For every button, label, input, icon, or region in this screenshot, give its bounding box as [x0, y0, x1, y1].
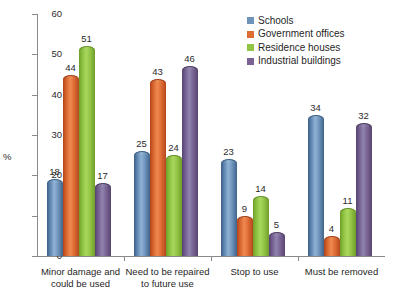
bar: 4: [324, 236, 340, 256]
bar-body: [166, 159, 182, 256]
bar-body: [237, 220, 253, 256]
bar: 11: [340, 208, 356, 256]
bar-body: [221, 163, 237, 256]
legend-swatch-icon: [247, 31, 254, 38]
legend-item[interactable]: Government offices: [247, 28, 345, 42]
bar: 44: [63, 75, 79, 256]
bar-value-label: 24: [168, 143, 179, 152]
legend-item[interactable]: Schools: [247, 14, 345, 28]
x-tick-mark: [124, 256, 125, 261]
y-axis-title: %: [3, 152, 11, 161]
bar-group: 18445117: [47, 14, 111, 256]
bar: 46: [182, 66, 198, 256]
bar-body: [356, 127, 372, 256]
bar-value-label: 9: [242, 204, 247, 213]
bar-value-label: 34: [310, 103, 321, 112]
bar-value-label: 4: [329, 224, 334, 233]
bar-value-label: 17: [97, 171, 108, 180]
bar-body: [340, 212, 356, 256]
bar-value-label: 32: [358, 111, 369, 120]
bar-body: [308, 119, 324, 256]
x-tick-mark: [211, 256, 212, 261]
legend-label: Industrial buildings: [258, 56, 341, 66]
bar-body: [79, 50, 95, 256]
bar: 14: [253, 196, 269, 256]
bar-group: 25432446: [134, 14, 198, 256]
legend-label: Government offices: [258, 29, 345, 39]
bar-value-label: 14: [255, 184, 266, 193]
bar: 25: [134, 151, 150, 256]
bar-value-label: 18: [49, 167, 60, 176]
category-label: Must be removed: [290, 266, 393, 278]
legend-swatch-icon: [247, 44, 254, 51]
bar: 24: [166, 155, 182, 256]
legend-label: Schools: [258, 16, 294, 26]
bar-value-label: 43: [152, 67, 163, 76]
bar-body: [253, 200, 269, 256]
bar-body: [134, 155, 150, 256]
bar-body: [182, 70, 198, 256]
bar: 43: [150, 79, 166, 256]
bar-value-label: 51: [81, 34, 92, 43]
legend-item[interactable]: Residence houses: [247, 41, 345, 55]
legend-swatch-icon: [247, 17, 254, 24]
bar-body: [324, 240, 340, 256]
bar-value-label: 5: [274, 220, 279, 229]
legend-item[interactable]: Industrial buildings: [247, 55, 345, 69]
bar-value-label: 44: [65, 63, 76, 72]
bar-body: [63, 79, 79, 256]
bar: 18: [47, 179, 63, 256]
bar: 32: [356, 123, 372, 256]
bar-value-label: 46: [184, 54, 195, 63]
bar-body: [269, 236, 285, 256]
bar: 34: [308, 115, 324, 256]
bar-body: [150, 83, 166, 256]
bar: 5: [269, 232, 285, 256]
bar: 23: [221, 159, 237, 256]
bar: 51: [79, 46, 95, 256]
bar: 9: [237, 216, 253, 256]
bar: 17: [95, 183, 111, 256]
y-tick-mark: [32, 256, 37, 257]
legend-label: Residence houses: [258, 43, 340, 53]
bar-body: [95, 187, 111, 256]
bar-body: [47, 183, 63, 256]
bar-chart: % 0102030405060 184451172543244623914534…: [0, 0, 393, 298]
chart-legend: SchoolsGovernment officesResidence house…: [247, 14, 345, 68]
legend-swatch-icon: [247, 58, 254, 65]
bar-value-label: 11: [343, 196, 353, 205]
x-tick-mark: [298, 256, 299, 261]
bar-value-label: 23: [223, 147, 234, 156]
bar-value-label: 25: [136, 139, 147, 148]
